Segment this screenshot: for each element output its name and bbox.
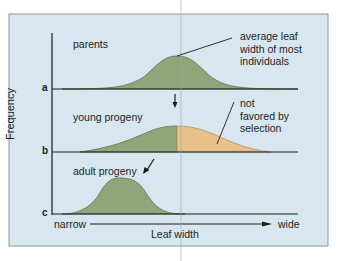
y-axis-label: Frequency [4,88,16,140]
parents-label: parents [73,38,108,50]
wide-label: wide [278,218,300,230]
average-line-2: width of most [240,43,302,56]
average-line-3: individuals [240,55,302,68]
panel-letter-a: a [42,82,48,94]
panel-letter-b: b [42,145,48,157]
panel-letter-c: c [42,207,48,219]
not-favored-line-1: not [240,97,289,110]
average-annotation: average leaf width of most individuals [240,30,302,68]
not-favored-line-3: selection [240,122,289,135]
not-favored-line-2: favored by [240,110,289,123]
adult-progeny-label: adult progeny [73,165,137,177]
narrow-label: narrow [54,218,86,230]
natural-selection-diagram: Frequency a b c parents young progeny ad… [0,0,341,261]
young-progeny-label: young progeny [73,111,142,123]
x-axis-label: Leaf width [151,228,199,240]
not-favored-annotation: not favored by selection [240,97,289,135]
average-line-1: average leaf [240,30,302,43]
